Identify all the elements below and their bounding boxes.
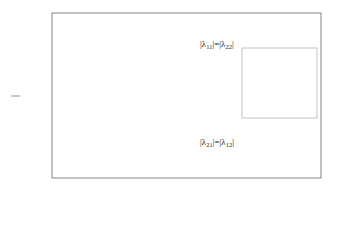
- svg-text:|: |: [9, 95, 20, 97]
- chart: | |λ11|=|λ22| |λ21|=|λ12|: [0, 0, 339, 225]
- y-axis-label: |: [9, 95, 20, 97]
- annotation-diagonal: |λ11|=|λ22|: [200, 39, 234, 50]
- annotation-offdiagonal: |λ21|=|λ12|: [200, 137, 234, 148]
- legend: [242, 48, 317, 118]
